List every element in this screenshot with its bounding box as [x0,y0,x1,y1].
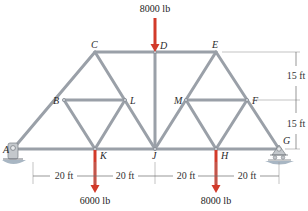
member-HF [216,100,247,149]
node-label-A: A [2,144,10,155]
dim-label-h3: 20 ft [177,170,196,181]
node-label-G: G [283,135,290,146]
node-label-B: B [53,95,59,106]
node-label-M: M [173,95,183,106]
member-KL [95,100,125,149]
node-label-J: J [152,150,157,161]
load-arrow-D [151,18,160,52]
dim-label-h4: 20 ft [238,170,257,181]
node-label-F: F [251,95,259,106]
load-label-D: 8000 lb [140,3,170,14]
load-label-K: 6000 lb [80,195,110,206]
member-BK [64,100,95,149]
load-label-H: 8000 lb [201,195,231,206]
node-label-K: K [99,150,108,161]
node-label-E: E [211,39,218,50]
member-MH [186,100,216,149]
dim-label-v2: 15 ft [287,118,306,129]
dim-label-h1: 20 ft [55,170,74,181]
node-label-D: D [159,40,168,51]
node-label-H: H [220,150,229,161]
truss-diagram: 8000 lb 6000 lb 8000 lb A B C D E F G H … [0,0,308,211]
horizontal-dimensions: 20 ft 20 ft 20 ft 20 ft [33,162,279,184]
node-label-L: L [129,95,136,106]
dim-label-h2: 20 ft [116,170,135,181]
dim-label-v1: 15 ft [287,70,306,81]
node-label-C: C [91,39,98,50]
